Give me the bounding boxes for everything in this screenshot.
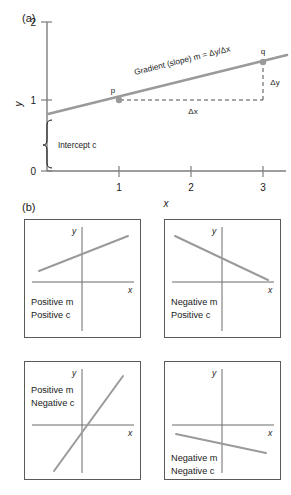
panel-a-point-q [260, 59, 266, 65]
subpanel-2-caption-line1: Negative m [171, 297, 218, 307]
panel-a-point-p-label: p [111, 86, 116, 95]
panel-a-xtick-label-2: 2 [188, 182, 194, 193]
figure-canvas: (a) 2 1 0 1 2 3 x y p q Gradient (sl [0, 0, 291, 495]
subpanel-2-x-axis-label: x [267, 285, 273, 295]
subpanel-positive-m-positive-c: y x Positive m Positive c [25, 220, 141, 338]
subpanel-4-caption-line2: Negative c [171, 466, 215, 476]
panel-a-point-p [116, 97, 122, 103]
figure-straight-line-graphs: (a) 2 1 0 1 2 3 x y p q Gradient (sl [0, 0, 291, 495]
subpanel-1-x-axis-label: x [127, 285, 133, 295]
panel-a-ytick-label-2: 2 [30, 17, 36, 28]
subpanel-negative-m-negative-c: y x Negative m Negative c [165, 362, 281, 480]
panel-a-y-axis-label: y [13, 101, 24, 108]
subpanel-3-y-axis-label: y [71, 368, 77, 378]
subpanel-1-caption-line1: Positive m [31, 297, 74, 307]
subpanel-positive-m-negative-c: y x Positive m Negative c [25, 362, 141, 480]
subpanel-4-x-axis-label: x [267, 428, 273, 438]
panel-a-xtick-label-3: 3 [260, 182, 266, 193]
panel-a-ytick-label-0: 0 [30, 166, 36, 177]
subpanel-3-x-axis-label: x [127, 428, 133, 438]
subpanel-1-y-axis-label: y [71, 226, 77, 236]
subpanel-4-caption-line1: Negative m [171, 453, 218, 463]
panel-a-x-axis-label: x [163, 198, 170, 209]
panel-b-tag: (b) [22, 201, 35, 213]
panel-a-delta-x-label: Δx [188, 107, 197, 116]
subpanel-3-caption-line1: Positive m [31, 385, 74, 395]
subpanel-3-caption-line2: Negative c [31, 398, 75, 408]
panel-a-ytick-label-1: 1 [30, 95, 36, 106]
subpanel-2-caption-line2: Positive c [171, 310, 211, 320]
panel-a-delta-y-label: Δy [270, 78, 279, 87]
subpanel-4-y-axis-label: y [211, 368, 217, 378]
subpanel-1-caption-line2: Positive c [31, 310, 71, 320]
subpanel-2-y-axis-label: y [211, 226, 217, 236]
subpanel-negative-m-positive-c: y x Negative m Positive c [165, 220, 281, 338]
panel-a-point-q-label: q [261, 47, 265, 56]
panel-a-intercept-label: Intercept c [58, 141, 96, 150]
panel-a-xtick-label-1: 1 [116, 182, 122, 193]
